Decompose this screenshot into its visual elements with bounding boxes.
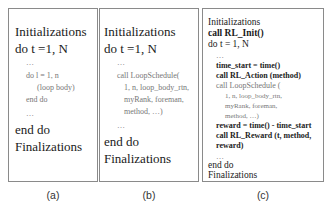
caption-a: (a) [8, 189, 98, 201]
line-loop-body: (loop body) [37, 83, 75, 93]
line-finalizations: Finalizations [208, 170, 257, 181]
line-args-2: myRank, foreman, [225, 101, 277, 111]
line-do-l: do l = 1, n [26, 71, 59, 81]
line-do-t: do t = 1, N [208, 39, 249, 50]
line-ellipsis: … [117, 121, 125, 131]
line-finalizations: Finalizations [15, 140, 82, 154]
line-args-1: 1, n, loop_body_rtn, [124, 83, 189, 93]
caption-b: (b) [99, 189, 199, 201]
line-call-rl-init: call RL_Init() [208, 28, 264, 39]
line-ellipsis: … [26, 58, 34, 68]
panel-a-code-box: Initializations do t =1, N … do l = 1, n… [8, 8, 98, 182]
line-call-loopschedule: call LoopSchedule ( [216, 81, 280, 91]
line-args-1: 1, n, loop_body_rtn, [225, 91, 282, 101]
line-initializations: Initializations [208, 17, 260, 28]
line-args-3: method, …) [124, 107, 163, 117]
caption-c: (c) [202, 189, 324, 201]
line-ellipsis: … [216, 51, 224, 61]
line-do-t: do t =1, N [104, 42, 157, 56]
line-end-do: end do [104, 135, 139, 149]
line-call-rl-reward: call RL_Reward (t, method, [216, 131, 311, 141]
line-call-loopschedule: call LoopSchedule( [117, 71, 179, 81]
panel-b-code-box: Initializations do t =1, N … call LoopSc… [99, 8, 199, 182]
panel-c-code-box: Initializations call RL_Init() do t = 1,… [202, 8, 324, 182]
line-ellipsis: … [117, 58, 125, 68]
line-reward: reward = time() - time_start [216, 121, 311, 131]
line-call-rl-action: call RL_Action (method) [216, 71, 301, 81]
line-ellipsis: … [26, 109, 34, 119]
line-args-2: myRank, foreman, [124, 95, 184, 105]
line-end-do: end do [15, 123, 50, 137]
line-initializations: Initializations [15, 25, 86, 39]
line-initializations: Initializations [104, 25, 175, 39]
line-call-rl-reward-cont: reward) [216, 141, 243, 151]
line-time-start: time_start = time() [216, 61, 280, 71]
line-end-do-inner: end do [26, 95, 48, 105]
line-do-t: do t =1, N [15, 42, 68, 56]
line-finalizations: Finalizations [104, 152, 171, 166]
line-args-3: method, …) [225, 111, 259, 121]
